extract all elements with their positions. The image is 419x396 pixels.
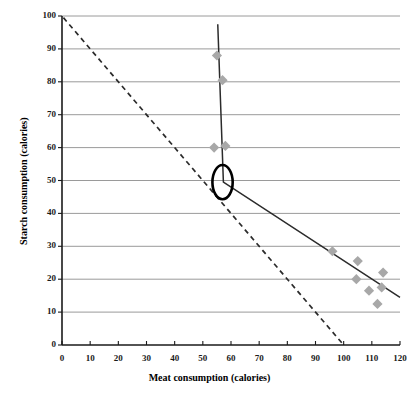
x-tick-label: 80 bbox=[272, 353, 302, 363]
x-tick-label: 110 bbox=[357, 353, 387, 363]
data-point-marker bbox=[212, 50, 222, 60]
y-tick-label: 100 bbox=[28, 10, 56, 20]
x-tick-label: 100 bbox=[329, 353, 359, 363]
y-tick-label: 30 bbox=[28, 240, 56, 250]
x-tick-label: 90 bbox=[301, 353, 331, 363]
data-point-marker bbox=[353, 256, 363, 266]
chart-container: 0102030405060708090100 01020304050607080… bbox=[0, 0, 419, 396]
x-axis-title: Meat consumption (calories) bbox=[0, 372, 419, 383]
data-point-marker bbox=[364, 286, 374, 296]
x-tick-label: 40 bbox=[160, 353, 190, 363]
y-tick-label: 0 bbox=[28, 339, 56, 349]
x-tick-label: 120 bbox=[385, 353, 415, 363]
budget-line bbox=[63, 18, 343, 345]
x-tick-label: 0 bbox=[47, 353, 77, 363]
x-tick-label: 70 bbox=[244, 353, 274, 363]
y-tick-label: 90 bbox=[28, 43, 56, 53]
y-tick-label: 20 bbox=[28, 273, 56, 283]
data-point-marker bbox=[351, 274, 361, 284]
gridlines bbox=[62, 16, 400, 312]
data-points bbox=[209, 50, 388, 309]
y-tick-label: 60 bbox=[28, 142, 56, 152]
x-tick-label: 50 bbox=[188, 353, 218, 363]
x-tick-label: 10 bbox=[75, 353, 105, 363]
y-tick-label: 70 bbox=[28, 109, 56, 119]
data-point-marker bbox=[372, 299, 382, 309]
y-tick-label: 40 bbox=[28, 207, 56, 217]
x-tick-label: 30 bbox=[132, 353, 162, 363]
y-tick-label: 80 bbox=[28, 76, 56, 86]
data-point-marker bbox=[378, 268, 388, 278]
y-axis-title: Starch consumption (calories) bbox=[18, 117, 29, 245]
x-tick-label: 60 bbox=[216, 353, 246, 363]
y-tick-label: 10 bbox=[28, 306, 56, 316]
y-tick-label: 50 bbox=[28, 175, 56, 185]
x-tick-label: 20 bbox=[103, 353, 133, 363]
data-point-marker bbox=[209, 143, 219, 153]
price-consumption-curve bbox=[218, 24, 400, 297]
chart-plot-area bbox=[0, 0, 419, 396]
